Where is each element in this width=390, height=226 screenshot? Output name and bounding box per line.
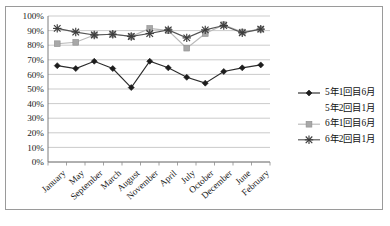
legend-label-2: 6年1回目6月 bbox=[325, 117, 375, 128]
y-axis-label: 80% bbox=[27, 40, 44, 50]
series-marker-0 bbox=[258, 62, 264, 68]
series-marker-0 bbox=[184, 74, 190, 80]
series-marker-0 bbox=[73, 66, 79, 72]
series-marker-2 bbox=[54, 41, 60, 47]
legend-marker-2 bbox=[306, 121, 312, 127]
y-axis-label: 30% bbox=[27, 113, 44, 123]
series-marker-0 bbox=[221, 68, 227, 74]
legend-label-0: 5年1回目6月 bbox=[325, 86, 375, 97]
x-axis-label: April bbox=[157, 168, 178, 189]
y-axis-label: 40% bbox=[27, 99, 44, 109]
y-axis-label: 20% bbox=[27, 128, 44, 138]
legend-label-1: 5年2回目1月 bbox=[325, 102, 375, 113]
series-marker-0 bbox=[54, 63, 60, 69]
line-chart: 0%10%20%30%40%50%60%70%80%90%100%January… bbox=[6, 7, 382, 209]
legend-label-3: 6年2回目1月 bbox=[325, 133, 375, 144]
y-axis-label: 100% bbox=[23, 11, 45, 21]
y-axis-label: 90% bbox=[27, 26, 44, 36]
series-marker-2 bbox=[184, 45, 190, 51]
series-marker-2 bbox=[73, 39, 79, 45]
legend-marker-0 bbox=[306, 90, 312, 96]
y-axis-label: 10% bbox=[27, 143, 44, 153]
chart-page: 0%10%20%30%40%50%60%70%80%90%100%January… bbox=[0, 0, 390, 226]
series-marker-0 bbox=[91, 58, 97, 64]
series-marker-0 bbox=[239, 65, 245, 71]
y-axis-label: 70% bbox=[27, 55, 44, 65]
x-axis-label: January bbox=[40, 168, 68, 195]
y-axis-label: 50% bbox=[27, 84, 44, 94]
series-marker-0 bbox=[202, 80, 208, 86]
y-axis-label: 60% bbox=[27, 70, 44, 80]
chart-frame: 0%10%20%30%40%50%60%70%80%90%100%January… bbox=[5, 6, 383, 210]
y-axis-label: 0% bbox=[32, 157, 45, 167]
series-marker-0 bbox=[165, 65, 171, 71]
